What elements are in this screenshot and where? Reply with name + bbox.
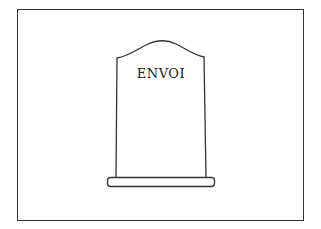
tombstone-icon [0,0,321,229]
epitaph-text: ENVOI [116,66,206,81]
headstone-outline [116,41,206,177]
headstone-plinth [108,178,215,187]
